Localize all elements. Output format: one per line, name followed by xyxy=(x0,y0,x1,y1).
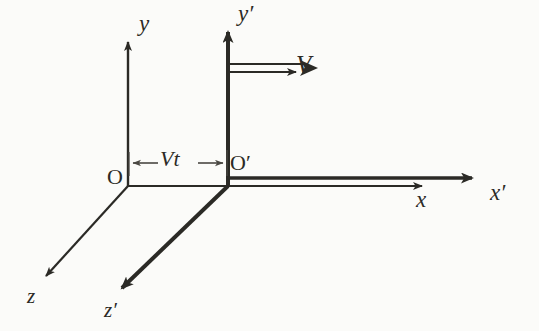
axis-label-x-prime: x′ xyxy=(490,181,505,204)
coordinate-frames-svg xyxy=(0,0,539,331)
origin-label-o-prime: O′ xyxy=(230,152,251,174)
origin-label-o: O xyxy=(107,166,123,188)
physics-diagram-figure: y y′ V Vt O O′ x x′ z z′ xyxy=(0,0,539,331)
axis-label-z-prime: z′ xyxy=(104,300,117,321)
displacement-label: Vt xyxy=(160,148,180,170)
axis-z-prime xyxy=(122,186,228,288)
axis-z xyxy=(46,186,128,276)
axis-label-y: y xyxy=(139,12,149,35)
axis-label-x: x xyxy=(416,188,426,211)
velocity-label: V xyxy=(296,52,311,77)
axis-label-z: z xyxy=(27,286,35,307)
axis-label-y-prime: y′ xyxy=(238,2,253,25)
